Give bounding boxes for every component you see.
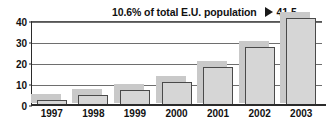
- bar-2001[interactable]: [203, 67, 233, 105]
- bar-group-1997[interactable]: [37, 21, 67, 105]
- x-axis-tick-label-1999: 1999: [124, 108, 146, 119]
- x-axis-tick-label-2000: 2000: [165, 108, 187, 119]
- bar-group-2002[interactable]: [245, 21, 275, 105]
- x-axis-labels: 1997199819992000200120022003: [31, 108, 322, 124]
- bar-2003[interactable]: [286, 18, 316, 105]
- bar-group-2003[interactable]: [286, 21, 316, 105]
- bar-group-1998[interactable]: [78, 21, 108, 105]
- annotation-label: 10.6% of total E.U. population: [112, 6, 257, 18]
- bars-layer: [31, 21, 322, 105]
- chart-annotation: 10.6% of total E.U. population 41.5: [112, 5, 297, 19]
- bar-1999[interactable]: [120, 90, 150, 105]
- x-axis-tick-label-2003: 2003: [290, 108, 312, 119]
- bar-2000[interactable]: [162, 82, 192, 105]
- bar-group-1999[interactable]: [120, 21, 150, 105]
- y-axis-tick-label: 20: [16, 59, 27, 70]
- x-axis-tick-label-2002: 2002: [249, 108, 271, 119]
- right-triangle-marker-icon: [265, 7, 273, 17]
- bar-group-2000[interactable]: [162, 21, 192, 105]
- y-axis-tick-mark: [29, 106, 32, 107]
- x-axis-tick-label-1997: 1997: [41, 108, 63, 119]
- y-axis-tick-label: 10: [16, 80, 27, 91]
- bar-2002[interactable]: [245, 47, 275, 105]
- y-axis-tick-label: 30: [16, 38, 27, 49]
- y-axis-tick-label: 0: [21, 101, 27, 112]
- x-axis-tick-label-2001: 2001: [207, 108, 229, 119]
- y-axis-tick-label: 40: [16, 17, 27, 28]
- bar-group-2001[interactable]: [203, 21, 233, 105]
- x-axis-line: [31, 104, 326, 106]
- x-axis-tick-label-1998: 1998: [82, 108, 104, 119]
- bar-chart: 10.6% of total E.U. population 41.5 0102…: [0, 0, 335, 135]
